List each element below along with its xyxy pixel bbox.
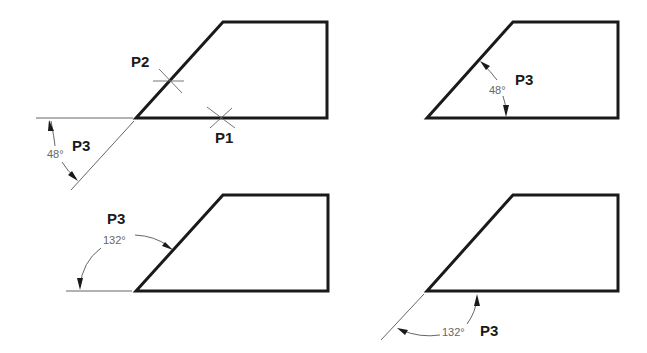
panel-bottom-right: 132° P3 bbox=[381, 195, 618, 340]
angle-value: 48° bbox=[47, 148, 64, 160]
label-p3: P3 bbox=[72, 137, 90, 154]
label-p3: P3 bbox=[515, 71, 533, 88]
pick-point-p2-marker bbox=[153, 69, 184, 93]
angle-value: 48° bbox=[489, 84, 506, 96]
angle-value: 132° bbox=[103, 234, 126, 246]
trapezoid-shape bbox=[427, 22, 618, 118]
dimension-arrowhead bbox=[503, 105, 509, 117]
dimension-arrowhead bbox=[397, 328, 408, 335]
panel-bottom-left: 132° P3 bbox=[66, 195, 328, 291]
extension-line-slanted bbox=[381, 294, 424, 340]
extension-line-slanted bbox=[71, 121, 134, 190]
panel-top-right: 48° P3 bbox=[427, 22, 618, 118]
label-p1: P1 bbox=[215, 129, 233, 146]
label-p3: P3 bbox=[107, 210, 125, 227]
diagram-canvas: 48° P3 P2 P1 48° P3 132° P3 132° P3 bbox=[0, 0, 647, 353]
dimension-arc bbox=[80, 248, 101, 287]
dimension-arrowhead bbox=[480, 61, 490, 70]
label-p3: P3 bbox=[480, 322, 498, 339]
dimension-arrowhead bbox=[77, 278, 83, 290]
trapezoid-shape bbox=[427, 195, 618, 291]
dimension-arrowhead bbox=[474, 294, 480, 306]
angle-value: 132° bbox=[442, 326, 465, 338]
label-p2: P2 bbox=[131, 53, 149, 70]
trapezoid-shape bbox=[136, 22, 327, 118]
dimension-arc bbox=[135, 235, 168, 246]
panel-top-left: 48° P3 P2 P1 bbox=[36, 22, 327, 190]
dimension-arc bbox=[51, 121, 55, 146]
